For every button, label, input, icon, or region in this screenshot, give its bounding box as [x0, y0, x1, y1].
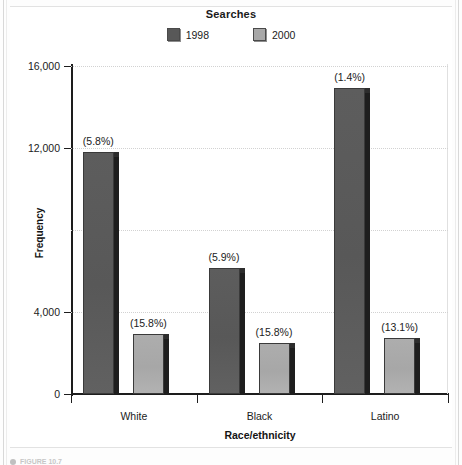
bar-annotation: (1.4%)	[334, 71, 365, 83]
legend-swatch-2000	[253, 28, 266, 41]
bar-annotation: (13.1%)	[381, 321, 418, 333]
legend-swatch-1998	[167, 28, 180, 41]
bar-side-face	[240, 273, 245, 394]
y-tick-mark	[64, 66, 71, 67]
page-edge-right	[458, 0, 459, 465]
grid-line	[71, 148, 448, 149]
bar-latino-1998[interactable]	[334, 88, 370, 394]
x-tick-mark	[197, 394, 198, 403]
figure-caption: FIGURE 10.7	[10, 458, 62, 465]
bar-white-2000[interactable]	[133, 334, 169, 394]
legend-label-1998: 1998	[186, 29, 209, 41]
bar-black-2000[interactable]	[259, 343, 295, 394]
bar-black-1998[interactable]	[209, 268, 245, 394]
grid-line	[71, 66, 448, 67]
y-tick-mark	[64, 394, 71, 395]
page-edge-left	[3, 0, 4, 465]
bar-face	[83, 152, 114, 394]
legend-item-1998[interactable]: 1998	[167, 28, 209, 41]
bar-annotation: (5.9%)	[209, 251, 240, 263]
x-tick-mark	[448, 394, 449, 403]
y-tick-mark	[64, 148, 71, 149]
y-tick-label: 16,000	[28, 60, 60, 72]
bar-annotation: (15.8%)	[256, 326, 293, 338]
bar-white-1998[interactable]	[83, 152, 119, 394]
bar-annotation: (15.8%)	[130, 317, 167, 329]
bar-side-face	[114, 157, 119, 394]
bar-annotation: (5.8%)	[83, 135, 114, 147]
x-axis-title: Race/ethnicity	[71, 429, 449, 441]
bar-face	[384, 338, 415, 394]
y-axis-title: Frequency	[34, 207, 45, 258]
bar-side-face	[164, 339, 169, 394]
plot-area: 04,00012,00016,000(5.8%)(15.8%)White(5.9…	[71, 66, 448, 394]
bar-face	[334, 88, 365, 394]
figure-caption-text: FIGURE 10.7	[20, 458, 62, 465]
bar-face	[133, 334, 164, 394]
page-edge-left-2	[6, 0, 7, 465]
x-tick-mark	[322, 394, 323, 403]
bar-face	[259, 343, 290, 394]
bar-side-face	[290, 348, 295, 394]
y-tick-label: 12,000	[28, 142, 60, 154]
x-tick-mark	[71, 394, 72, 403]
grid-line	[71, 230, 448, 231]
bar-face	[209, 268, 240, 394]
bar-side-face	[365, 93, 370, 394]
y-tick-label: 0	[54, 388, 60, 400]
chart-title: Searches	[0, 8, 462, 20]
y-tick-label: 4,000	[34, 306, 60, 318]
chart-legend: 1998 2000	[0, 28, 462, 41]
y-tick-mark	[64, 312, 71, 313]
legend-label-2000: 2000	[272, 29, 295, 41]
figure-container: Searches 1998 2000 04,00012,00016,000(5.…	[0, 0, 462, 465]
grid-line	[71, 312, 448, 313]
bar-latino-2000[interactable]	[384, 338, 420, 394]
x-tick-label-black: Black	[247, 410, 273, 422]
bar-side-face	[415, 343, 420, 394]
caption-bullet-icon	[10, 459, 16, 465]
page-edge-right-2	[455, 0, 456, 465]
x-tick-label-latino: Latino	[371, 410, 400, 422]
legend-item-2000[interactable]: 2000	[253, 28, 295, 41]
x-tick-label-white: White	[120, 410, 147, 422]
